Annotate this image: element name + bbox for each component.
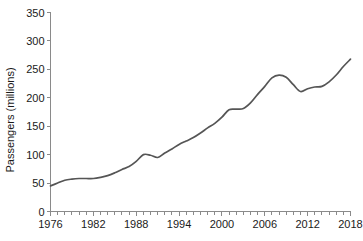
y-tick-label: 250 [26, 63, 44, 75]
x-tick-label: 2018 [338, 218, 362, 230]
y-axis-title: Passengers (millions) [4, 67, 16, 172]
x-tick-label: 1988 [124, 218, 148, 230]
y-tick-label: 100 [26, 149, 44, 161]
x-axis-tick-labels: 19761982198819942000200620122018 [38, 218, 362, 230]
y-tick-label: 350 [26, 7, 44, 19]
x-tick-label: 1994 [167, 218, 191, 230]
x-tick-label: 1982 [81, 218, 105, 230]
y-tick-label: 300 [26, 35, 44, 47]
x-tick-label: 2012 [295, 218, 319, 230]
y-tick-label: 0 [38, 206, 44, 218]
x-axis-tick-marks [51, 212, 351, 216]
y-tick-label: 50 [32, 177, 44, 189]
y-axis-title-group: Passengers (millions) [4, 67, 16, 172]
data-series-line [51, 59, 351, 186]
y-axis-tick-labels: 050100150200250300350 [26, 7, 44, 218]
x-tick-label: 2000 [210, 218, 234, 230]
x-tick-label: 1976 [38, 218, 62, 230]
y-tick-label: 200 [26, 92, 44, 104]
y-tick-label: 150 [26, 120, 44, 132]
chart-container: Passengers (millions) 050100150200250300… [0, 0, 363, 241]
x-tick-label: 2006 [253, 218, 277, 230]
line-chart: Passengers (millions) 050100150200250300… [0, 0, 363, 241]
